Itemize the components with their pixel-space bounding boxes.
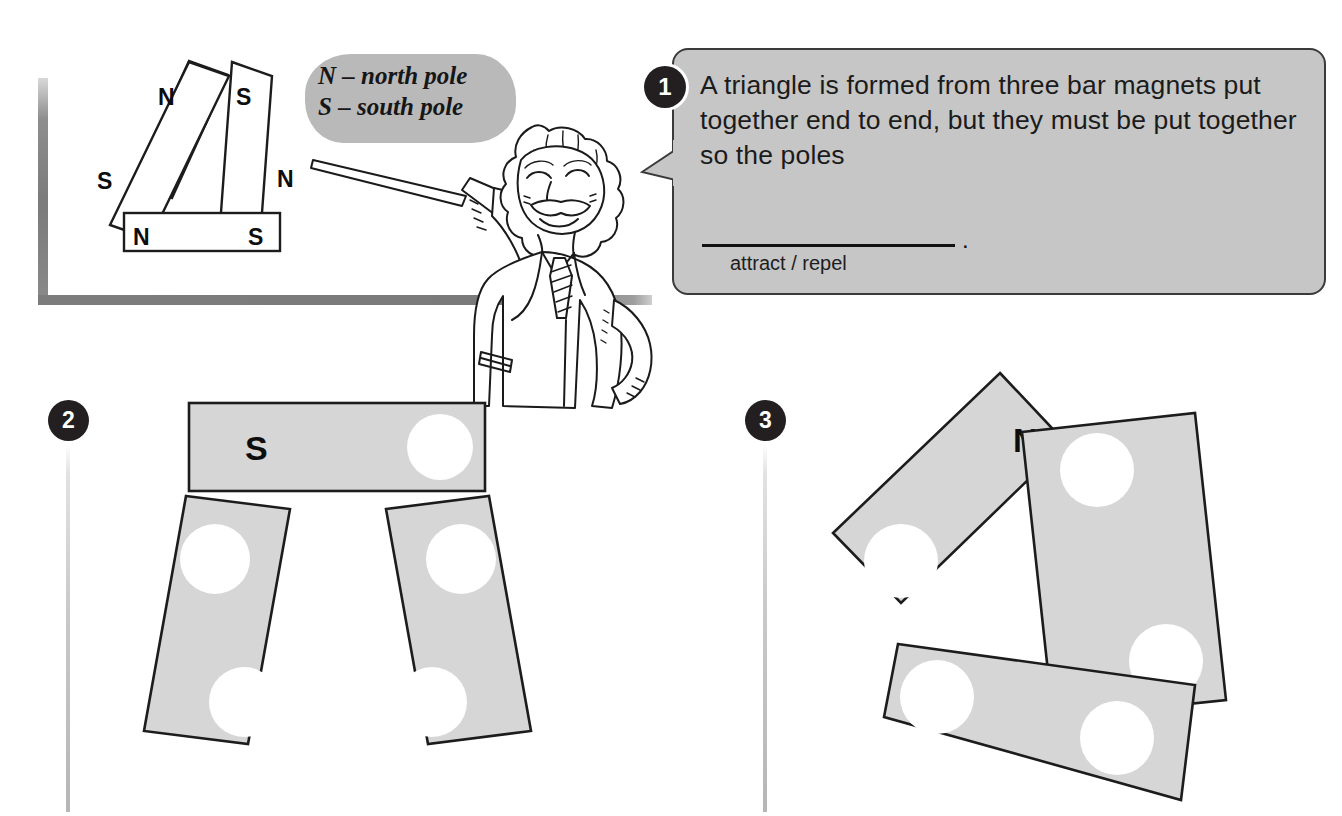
question-3-magnet-diagram: N — [0, 0, 1342, 816]
question-1-badge: 1 — [644, 66, 686, 108]
question-3-badge: 3 — [745, 400, 786, 441]
question-2-badge: 2 — [48, 400, 89, 441]
worksheet-page: N S S N N S N – north pole S – south pol… — [0, 0, 1342, 816]
